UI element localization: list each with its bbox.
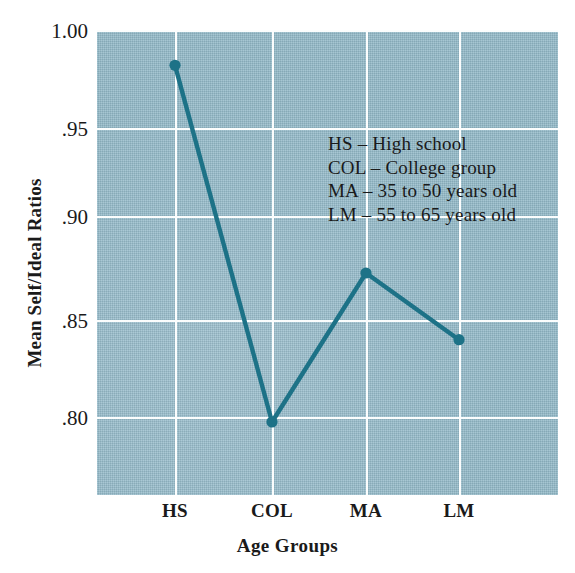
data-point-col [266,416,277,427]
data-point-ma [360,267,371,278]
y-tick-label-1: 1.00 [0,19,88,44]
data-point-lm [453,334,464,345]
x-tick-label-lm: LM [424,500,494,522]
legend-item-hs: HS – High school [328,132,517,156]
y-tick-label-2: .95 [0,117,88,142]
legend-item-col: COL – College group [328,156,517,180]
y-tick-label-5: .80 [0,406,88,431]
x-tick-label-col: COL [237,500,307,522]
x-tick-label-hs: HS [140,500,210,522]
plot-area [97,30,558,495]
x-tick-label-ma: MA [331,500,401,522]
legend: HS – High school COL – College group MA … [328,132,517,226]
data-point-hs [169,60,180,71]
legend-item-ma: MA – 35 to 50 years old [328,179,517,203]
figure: 1.00 .95 .90 .85 .80 Mean Self/Ideal Rat… [0,0,575,573]
data-series-line [97,30,558,495]
y-axis-title: Mean Self/Ideal Ratios [24,143,46,403]
x-axis-title: Age Groups [0,535,575,557]
series-polyline [175,65,459,422]
legend-item-lm: LM – 55 to 65 years old [328,203,517,227]
